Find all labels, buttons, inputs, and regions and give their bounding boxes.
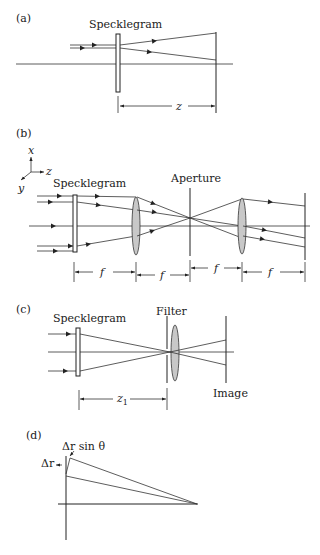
specklegram-plate (116, 34, 120, 92)
panel-d: (d) Δr sin θ Δr (26, 429, 198, 540)
diffracted-ray (120, 33, 216, 45)
ray-arrow-icon (147, 49, 153, 55)
ray (80, 352, 170, 371)
ray (243, 199, 305, 206)
dr-sin-theta-label: Δr sin θ (62, 440, 105, 453)
panel-a: (a) Specklegram z (16, 12, 233, 113)
ray-arrow-icon (48, 200, 53, 205)
ray-arrow-icon (268, 199, 273, 204)
dimension-f-label: f (267, 266, 274, 279)
lens-1 (132, 197, 140, 255)
specklegram-label: Specklegram (89, 18, 163, 31)
ray (77, 196, 136, 197)
ray-arrow-icon (262, 227, 268, 233)
dimension-z-label: z (175, 100, 182, 113)
dimension-f-label: f (99, 266, 106, 279)
panel-b: (b) x z y Specklegram Aperture (16, 127, 310, 282)
dimension-z1-label: z1 (116, 392, 128, 407)
path-difference-segment (66, 458, 70, 474)
ray-arrow-icon (63, 369, 68, 374)
dr-label: Δr (41, 457, 55, 470)
ray-arrow-icon (80, 46, 85, 51)
panel-a-label: (a) (16, 12, 31, 25)
panel-c: (c) Specklegram Filter Image z1 (16, 303, 248, 410)
ray-arrow-icon (68, 244, 73, 249)
aperture-label: Aperture (170, 172, 221, 185)
dimension-f-label: f (213, 262, 220, 275)
ray-arrow-icon (66, 332, 71, 337)
ray (190, 218, 242, 238)
ray-arrow-icon (95, 194, 100, 199)
ray-arrow-icon (92, 43, 97, 48)
ray (137, 218, 190, 236)
specklegram-plate (73, 195, 77, 252)
ray (137, 197, 190, 218)
ray-arrow-icon (149, 228, 155, 234)
ray-arrow-icon (51, 224, 56, 229)
ray (190, 199, 242, 218)
panel-c-label: (c) (16, 303, 31, 316)
ray (243, 236, 305, 247)
panel-d-label: (d) (26, 429, 42, 442)
ray (190, 218, 242, 226)
ray-arrow-icon (260, 236, 266, 242)
ray-arrow-icon (152, 209, 158, 215)
ray (80, 334, 170, 352)
axis-z-label: z (45, 165, 52, 178)
image-label: Image (213, 387, 248, 400)
coordinate-axes-icon: x z y (17, 144, 52, 195)
axis-y-label: y (17, 182, 25, 195)
ray-arrow-icon (152, 38, 158, 44)
filter-label: Filter (156, 305, 188, 318)
specklegram-plate (76, 328, 80, 376)
panel-b-label: (b) (16, 127, 32, 140)
specklegram-label: Specklegram (53, 177, 127, 190)
dimension-f-label: f (159, 269, 166, 282)
ray (77, 202, 136, 210)
ray (137, 210, 190, 218)
specklegram-label: Specklegram (53, 312, 127, 325)
ray (243, 226, 305, 238)
axis-x-label: x (28, 144, 35, 157)
ray-arrow-icon (57, 194, 62, 199)
ray (77, 236, 136, 246)
ray-arrow-icon (150, 200, 157, 207)
diffracted-ray (120, 48, 216, 60)
ray-arrow-icon (86, 241, 92, 247)
speckle-photography-diagram: (a) Specklegram z (b) x z y (0, 0, 320, 555)
ray-arrow-icon (53, 249, 58, 254)
